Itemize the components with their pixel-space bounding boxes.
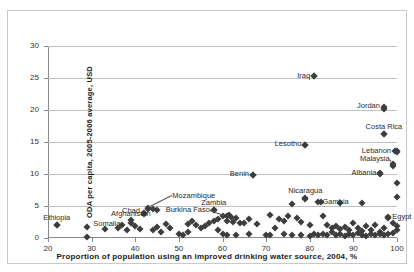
x-tick-mark [92,238,93,242]
data-point-labeled [84,224,91,231]
y-tick-label: 5 [15,202,39,210]
point-label: Jordan [357,102,380,110]
data-point [154,206,161,213]
data-point [319,213,326,220]
point-label: Costa Rica [366,123,403,131]
point-label: Afghanistan [111,210,151,218]
y-gridline [48,110,397,111]
x-tick-mark [223,238,224,242]
x-tick-mark [48,238,49,242]
x-tick-mark [353,238,354,242]
y-tick-label: 10 [15,170,39,178]
y-gridline [48,142,397,143]
point-label: Nicaragua [288,187,322,195]
data-point-labeled [302,194,309,201]
data-point-labeled [249,171,256,178]
y-tick-label: 15 [15,138,39,146]
data-point [297,218,304,225]
y-tick-label: 30 [15,42,39,50]
point-label: Egypt [392,213,411,221]
y-tick-mark [44,206,48,207]
y-tick-label: 0 [15,234,39,242]
y-axis-label: ODA per capita, 2005-2006 average, USD [85,66,94,218]
y-tick-mark [44,110,48,111]
data-point [267,211,274,218]
data-point [280,218,287,225]
point-label: Somalia [93,220,120,228]
y-tick-mark [44,174,48,175]
x-tick-mark [397,238,398,242]
chart-figure: · · · 0510152025302030405060708090100ODA… [0,0,414,272]
y-tick-label: 25 [15,74,39,82]
data-point [123,226,130,233]
data-point-labeled [376,170,383,177]
point-label: Albania [352,169,377,177]
x-axis-label: Proportion of population using an improv… [0,252,414,261]
y-gridline [48,78,397,79]
y-tick-mark [44,46,48,47]
y-tick-mark [44,142,48,143]
point-label: Iraq [297,72,310,80]
point-label: Gambia [322,198,348,206]
point-label: Benin [230,170,249,178]
y-gridline [48,46,397,47]
x-tick-mark [135,238,136,242]
data-point [306,221,313,228]
x-tick-mark [266,238,267,242]
y-tick-label: 20 [15,106,39,114]
data-point [158,228,165,235]
data-point [149,227,156,234]
data-point-labeled [53,221,60,228]
point-label: Ethiopia [43,214,70,222]
y-gridline [48,174,397,175]
point-label: Malaysia [360,155,390,163]
data-point [254,220,261,227]
data-point-labeled [380,130,387,137]
scatter-plot-area: 0510152025302030405060708090100ODA per c… [48,46,397,238]
point-label: Burkina Faso [166,206,210,214]
chart-title-remnant: · · · [212,0,292,4]
data-point [271,224,278,231]
x-tick-mark [179,238,180,242]
point-label: Lesotho [275,140,302,148]
data-point [280,230,287,237]
y-tick-mark [44,78,48,79]
